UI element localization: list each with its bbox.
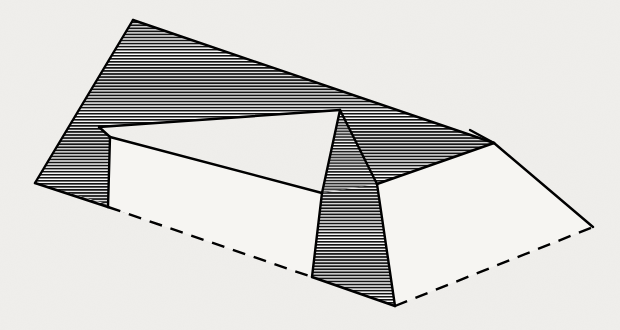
geometric-solid-drawing bbox=[0, 0, 620, 330]
figure-container: Hatched prismatic solid with hip and val… bbox=[0, 0, 620, 330]
